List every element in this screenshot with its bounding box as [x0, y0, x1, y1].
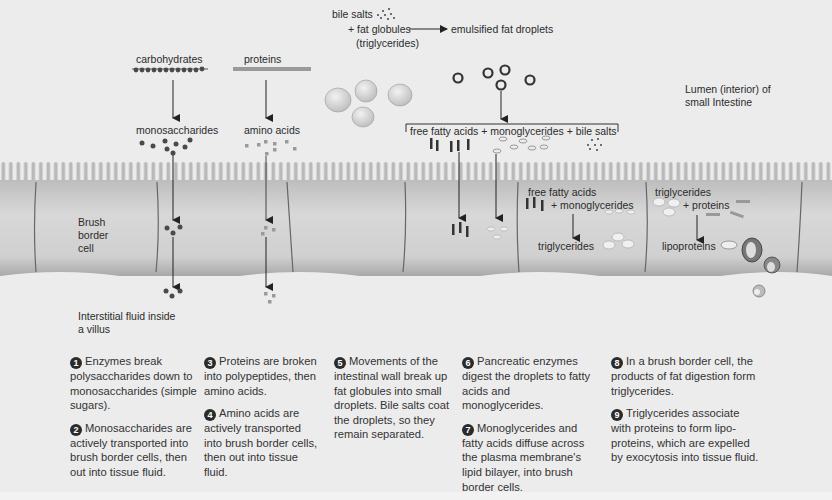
steps-column-2: 3Proteins are broken into polypeptides, … [204, 354, 322, 488]
bile-salts-icon [377, 8, 395, 20]
emulsified-droplets-icon [454, 66, 535, 90]
step-number-badge: 1 [70, 357, 82, 369]
label-cell-ffa: free fatty acids [528, 186, 596, 199]
label-cell2-proteins: + proteins [683, 199, 729, 212]
bile-salts-icon [587, 138, 602, 151]
step-number-badge: 5 [334, 357, 346, 369]
label-brush-3: cell [78, 242, 94, 255]
label-emulsified-droplets: emulsified fat droplets [451, 23, 553, 36]
label-brush-2: border [78, 229, 108, 242]
protein-chain-icon [233, 67, 311, 71]
step-2: 2Monosaccharides are actively transporte… [70, 421, 198, 480]
steps-column-3: 5Movements of the intestinal wall break … [334, 354, 452, 450]
fat-globules-icon [325, 80, 412, 127]
step-number-badge: 6 [462, 357, 474, 369]
step-5: 5Movements of the intestinal wall break … [334, 354, 452, 442]
step-number-badge: 3 [204, 357, 216, 369]
monoglyceride-icon [493, 136, 550, 153]
step-4: 4Amino acids are actively transported in… [204, 406, 322, 479]
steps-column-5: 8In a brush border cell, the products of… [611, 354, 761, 473]
label-brush-1: Brush [78, 216, 105, 229]
step-number-badge: 9 [611, 409, 623, 421]
step-number-badge: 2 [70, 424, 82, 436]
step-9: 9Triglycerides associate with proteins t… [611, 406, 761, 465]
carbohydrate-chain-icon [132, 67, 208, 73]
label-fat-globules: + fat globules [348, 23, 411, 36]
label-cell-trig: triglycerides [538, 240, 594, 253]
amino-acid-dots-icon [245, 140, 297, 156]
label-bracket-products: free fatty acids + monoglycerides + bile… [410, 125, 617, 138]
label-lumen-line2: small Intestine [685, 96, 752, 109]
fatty-acid-icon [430, 138, 470, 152]
label-cell-mono: + monoglycerides [551, 199, 634, 212]
label-interstitial-1: Interstitial fluid inside [78, 310, 175, 323]
step-number-badge: 8 [611, 357, 623, 369]
step-1: 1Enzymes break polysaccharides down to m… [70, 354, 198, 413]
step-3: 3Proteins are broken into polypeptides, … [204, 354, 322, 398]
step-number-badge: 7 [462, 424, 474, 436]
label-triglycerides-paren: (triglycerides) [356, 37, 419, 50]
monosaccharide-dots-icon [140, 138, 193, 156]
epithelium [0, 160, 832, 282]
step-8: 8In a brush border cell, the products of… [611, 354, 761, 398]
steps-column-4: 6Pancreatic enzymes digest the droplets … [462, 354, 592, 500]
label-lumen-line1: Lumen (interior) of [685, 83, 771, 96]
label-amino-acids: amino acids [244, 124, 300, 137]
label-monosaccharides: monosaccharides [136, 124, 218, 137]
step-number-badge: 4 [204, 409, 216, 421]
steps-column-1: 1Enzymes break polysaccharides down to m… [70, 354, 198, 488]
label-cell2-trig: triglycerides [655, 186, 711, 199]
step-7: 7Monoglycerides and fatty acids diffuse … [462, 421, 592, 494]
label-interstitial-2: a villus [78, 323, 110, 336]
label-carbohydrates: carbohydrates [136, 53, 203, 66]
label-lipoproteins: lipoproteins [662, 240, 716, 253]
step-6: 6Pancreatic enzymes digest the droplets … [462, 354, 592, 413]
label-proteins: proteins [244, 53, 281, 66]
label-bile-salts: bile salts [332, 8, 373, 21]
